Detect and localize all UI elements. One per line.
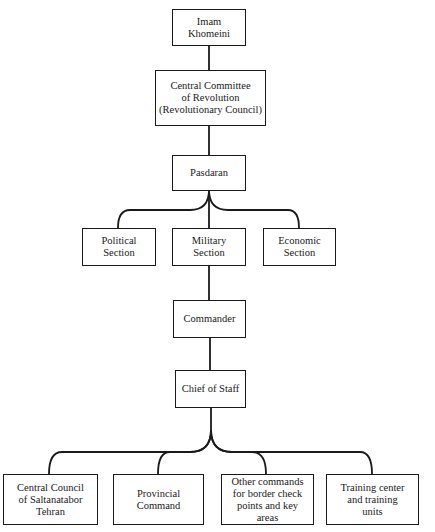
node-label: Central Committee of Revolution (Revolut… [159, 80, 262, 116]
node-military-section: Military Section [172, 228, 246, 266]
node-label: Chief of Staff [182, 383, 240, 395]
node-label: Other commands for border check points a… [231, 476, 303, 524]
node-label: Political Section [102, 235, 137, 259]
node-imam-khomeini: Imam Khomeini [172, 9, 246, 46]
edge-pasdaran-economic [209, 190, 299, 228]
edge-chief-provincial [158, 430, 211, 474]
edge-chief-training [211, 430, 372, 474]
edge-chief-central-council [49, 407, 211, 474]
node-label: Provincial Command [137, 488, 181, 512]
node-pasdaran: Pasdaran [172, 155, 246, 191]
node-chief-of-staff: Chief of Staff [175, 370, 246, 408]
edge-pasdaran-political [118, 190, 209, 228]
node-economic-section: Economic Section [263, 228, 336, 266]
node-label: Central Council of Saltanatabor Tehran [17, 482, 84, 518]
node-label: Pasdaran [190, 167, 228, 179]
node-label: Training center and training units [340, 482, 404, 518]
node-central-council-tehran: Central Council of Saltanatabor Tehran [3, 474, 98, 525]
node-central-committee: Central Committee of Revolution (Revolut… [155, 70, 266, 126]
node-label: Commander [184, 313, 236, 325]
node-other-commands: Other commands for border check points a… [221, 474, 314, 525]
node-provincial-command: Provincial Command [113, 474, 204, 525]
node-label: Economic Section [278, 235, 321, 259]
node-training-center: Training center and training units [326, 474, 419, 525]
node-commander: Commander [173, 300, 246, 338]
node-political-section: Political Section [82, 228, 156, 266]
node-label: Military Section [192, 235, 226, 259]
node-label: Imam Khomeini [175, 16, 243, 40]
